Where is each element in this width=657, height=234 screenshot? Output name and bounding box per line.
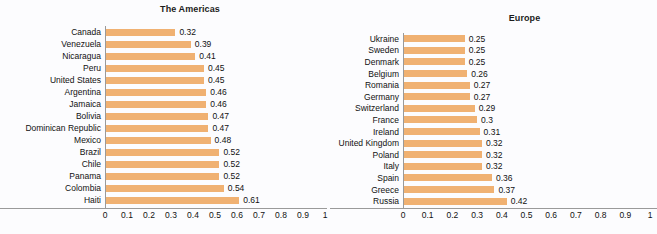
plot-area-americas: Canada0.32Venezuela0.39Nicaragua0.41Peru… bbox=[0, 26, 330, 209]
bar bbox=[403, 82, 470, 89]
category-label: Italy bbox=[330, 161, 403, 171]
chart-title-americas: The Americas bbox=[0, 4, 330, 14]
bar-track: 0.25 bbox=[403, 44, 657, 56]
x-tick-label: 0.3 bbox=[471, 210, 483, 221]
x-tick-label: 0.1 bbox=[121, 210, 133, 221]
value-label: 0.29 bbox=[475, 103, 496, 113]
value-label: 0.26 bbox=[467, 69, 488, 79]
bar bbox=[105, 149, 219, 156]
category-label: Argentina bbox=[0, 87, 105, 97]
category-label: Belgium bbox=[330, 69, 403, 79]
bar bbox=[403, 140, 482, 147]
bar-row: Haiti0.61 bbox=[0, 194, 330, 206]
x-tick-label: 0 bbox=[401, 210, 406, 221]
bar-track: 0.27 bbox=[403, 79, 657, 91]
chart-the-americas: The Americas Canada0.32Venezuela0.39Nica… bbox=[0, 0, 330, 234]
x-tick-label: 0.7 bbox=[570, 210, 582, 221]
bar-track: 0.3 bbox=[403, 114, 657, 126]
bar bbox=[403, 163, 482, 170]
bar-track: 0.37 bbox=[403, 184, 657, 196]
bar-row: Spain0.36 bbox=[330, 172, 657, 184]
bar-row: Ireland0.31 bbox=[330, 126, 657, 138]
category-label: Greece bbox=[330, 185, 403, 195]
value-label: 0.25 bbox=[465, 57, 486, 67]
value-label: 0.46 bbox=[206, 99, 227, 109]
value-label: 0.52 bbox=[219, 171, 240, 181]
bar-track: 0.47 bbox=[105, 122, 330, 134]
bar-row: Chile0.52 bbox=[0, 158, 330, 170]
x-axis-line-europe bbox=[330, 208, 657, 209]
bar bbox=[403, 116, 477, 123]
bar-row: Italy0.32 bbox=[330, 161, 657, 173]
category-label: Panama bbox=[0, 171, 105, 181]
value-label: 0.52 bbox=[219, 159, 240, 169]
value-label: 0.47 bbox=[208, 111, 229, 121]
value-label: 0.54 bbox=[224, 183, 245, 193]
bar-track: 0.27 bbox=[403, 91, 657, 103]
x-axis-ticks-americas: 00.10.20.30.40.50.60.70.80.91 bbox=[105, 210, 325, 224]
bar-track: 0.32 bbox=[403, 137, 657, 149]
bar bbox=[403, 35, 465, 42]
bar-track: 0.39 bbox=[105, 38, 330, 50]
category-label: Canada bbox=[0, 27, 105, 37]
x-tick-label: 0.4 bbox=[496, 210, 508, 221]
value-label: 0.32 bbox=[482, 150, 503, 160]
x-tick-label: 0.2 bbox=[143, 210, 155, 221]
category-label: Poland bbox=[330, 150, 403, 160]
bar-row: France0.3 bbox=[330, 114, 657, 126]
category-label: Sweden bbox=[330, 45, 403, 55]
bar-row: Mexico0.48 bbox=[0, 134, 330, 146]
category-label: United Kingdom bbox=[330, 138, 403, 148]
bar-track: 0.52 bbox=[105, 170, 330, 182]
bar bbox=[403, 128, 480, 135]
x-tick-label: 0.3 bbox=[165, 210, 177, 221]
x-tick-label: 0.5 bbox=[521, 210, 533, 221]
bar bbox=[105, 161, 219, 168]
bar-track: 0.29 bbox=[403, 102, 657, 114]
y-axis-line-americas bbox=[105, 26, 106, 208]
category-label: Jamaica bbox=[0, 99, 105, 109]
figure-container: The Americas Canada0.32Venezuela0.39Nica… bbox=[0, 0, 657, 234]
value-label: 0.25 bbox=[465, 45, 486, 55]
x-tick-label: 0.4 bbox=[187, 210, 199, 221]
bar-track: 0.32 bbox=[105, 26, 330, 38]
bar-track: 0.46 bbox=[105, 98, 330, 110]
bar bbox=[403, 198, 507, 205]
bar bbox=[105, 65, 204, 72]
value-label: 0.41 bbox=[195, 51, 216, 61]
bar bbox=[403, 58, 465, 65]
bar bbox=[105, 77, 204, 84]
value-label: 0.32 bbox=[482, 161, 503, 171]
bar-rows-europe: Ukraine0.25Sweden0.25Denmark0.25Belgium0… bbox=[330, 33, 657, 207]
bar bbox=[403, 105, 475, 112]
value-label: 0.39 bbox=[191, 39, 212, 49]
bar bbox=[105, 53, 195, 60]
bar-row: Greece0.37 bbox=[330, 184, 657, 196]
category-label: Switzerland bbox=[330, 103, 403, 113]
value-label: 0.48 bbox=[211, 135, 232, 145]
bar-track: 0.54 bbox=[105, 182, 330, 194]
bar bbox=[105, 137, 211, 144]
bar-track: 0.36 bbox=[403, 172, 657, 184]
value-label: 0.37 bbox=[494, 185, 515, 195]
bar-track: 0.45 bbox=[105, 74, 330, 86]
bar-row: Sweden0.25 bbox=[330, 45, 657, 57]
category-label: Colombia bbox=[0, 183, 105, 193]
bar-row: Colombia0.54 bbox=[0, 182, 330, 194]
bar-track: 0.45 bbox=[105, 62, 330, 74]
value-label: 0.32 bbox=[482, 138, 503, 148]
bar-track: 0.42 bbox=[403, 195, 657, 207]
category-label: Romania bbox=[330, 80, 403, 90]
value-label: 0.46 bbox=[206, 87, 227, 97]
value-label: 0.32 bbox=[175, 27, 196, 37]
bar-row: Brazil0.52 bbox=[0, 146, 330, 158]
bar bbox=[105, 101, 206, 108]
bar-track: 0.25 bbox=[403, 56, 657, 68]
category-label: Russia bbox=[330, 196, 403, 206]
x-tick-label: 0 bbox=[103, 210, 108, 221]
value-label: 0.25 bbox=[465, 34, 486, 44]
category-label: Denmark bbox=[330, 57, 403, 67]
bar bbox=[105, 173, 219, 180]
bar-track: 0.61 bbox=[105, 194, 330, 206]
value-label: 0.45 bbox=[204, 63, 225, 73]
